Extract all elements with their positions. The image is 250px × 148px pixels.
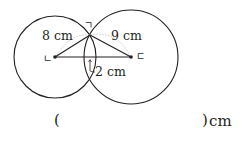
- answer-unit: cm: [209, 114, 232, 129]
- right-center-dot: [129, 55, 133, 59]
- point-label-left: ㄴ: [43, 54, 52, 64]
- left-radius-label: 8 cm: [42, 30, 73, 43]
- point-label-right: ㄷ: [136, 52, 145, 62]
- left-center-dot: [53, 55, 57, 59]
- point-label-top: ㄱ: [84, 21, 93, 31]
- answer-close-paren: ): [202, 113, 208, 128]
- overlap-label: 2 cm: [95, 66, 126, 79]
- answer-blank[interactable]: [62, 113, 200, 129]
- answer-open-paren: (: [54, 113, 60, 128]
- right-radius-label: 9 cm: [111, 30, 142, 43]
